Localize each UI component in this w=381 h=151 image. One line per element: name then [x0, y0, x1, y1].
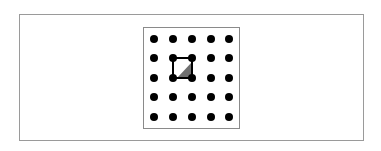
dot-grid-figure	[0, 0, 381, 151]
grid-dot	[150, 113, 158, 121]
grid-dot	[225, 93, 233, 101]
grid-dot	[169, 113, 177, 121]
grid-dot	[207, 93, 215, 101]
grid-dot	[169, 54, 177, 62]
grid-dot	[169, 74, 177, 82]
grid-dot	[207, 35, 215, 43]
grid-dot	[225, 35, 233, 43]
dot-grid	[150, 35, 233, 121]
grid-dot	[169, 35, 177, 43]
grid-dot	[207, 74, 215, 82]
grid-dot	[188, 74, 196, 82]
grid-dot	[225, 113, 233, 121]
grid-dot	[225, 54, 233, 62]
grid-dot	[188, 93, 196, 101]
grid-dot	[188, 113, 196, 121]
grid-dot	[150, 93, 158, 101]
grid-dot	[188, 35, 196, 43]
grid-dot	[150, 35, 158, 43]
grid-dot	[225, 74, 233, 82]
grid-dot	[188, 54, 196, 62]
grid-dot	[207, 113, 215, 121]
grid-dot	[150, 74, 158, 82]
grid-dot	[207, 54, 215, 62]
grid-dot	[169, 93, 177, 101]
grid-dot	[150, 54, 158, 62]
